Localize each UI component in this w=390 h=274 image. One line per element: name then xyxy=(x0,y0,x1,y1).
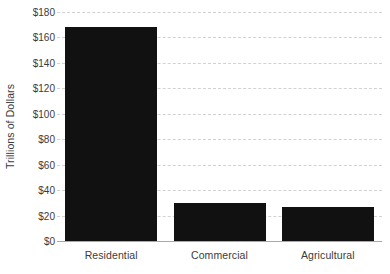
bar-commercial xyxy=(174,203,266,241)
y-axis-tick-label: $40 xyxy=(11,185,55,196)
y-axis-tick-label: $80 xyxy=(11,134,55,145)
bar-agricultural xyxy=(282,207,374,241)
y-axis-title: Trillions of Dollars xyxy=(2,12,18,241)
plot-area xyxy=(57,12,382,241)
bar-chart: Trillions of Dollars $0$20$40$60$80$100$… xyxy=(0,0,390,274)
y-axis-tick-label: $100 xyxy=(11,108,55,119)
y-axis-tick-label: $0 xyxy=(11,236,55,247)
gridline xyxy=(57,12,382,13)
x-axis-label-agricultural: Agricultural xyxy=(274,249,382,261)
y-axis-tick-label: $160 xyxy=(11,32,55,43)
y-axis-tick-label: $60 xyxy=(11,159,55,170)
y-axis-tick-label: $120 xyxy=(11,83,55,94)
x-axis-label-commercial: Commercial xyxy=(165,249,273,261)
bar-residential xyxy=(65,27,157,241)
y-axis-tick-label: $180 xyxy=(11,7,55,18)
y-axis-tick-label: $20 xyxy=(11,210,55,221)
gridline xyxy=(57,241,382,242)
y-axis-tick-label: $140 xyxy=(11,57,55,68)
x-axis-label-residential: Residential xyxy=(57,249,165,261)
